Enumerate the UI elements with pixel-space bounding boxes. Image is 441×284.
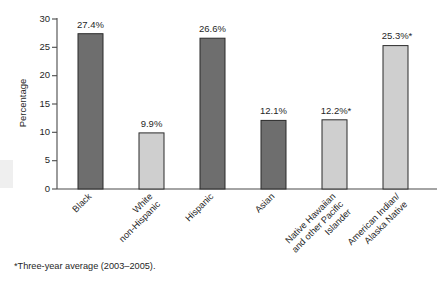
value-label-american-indian-alaska-native: 25.3%*: [382, 30, 413, 41]
bar-hispanic: [200, 38, 225, 189]
y-axis-ticks: 30 25 20 15 10 5 0: [39, 13, 57, 194]
bar-chart-figure: Percentage 30 25 20 15 10 5 0: [0, 0, 441, 284]
x-label-hispanic: Hispanic: [183, 191, 215, 223]
y-tick-label-30: 30: [39, 13, 50, 24]
y-tick-label-20: 20: [39, 69, 50, 80]
x-axis-category-labels: Black White non-Hispanic Hispanic Asian …: [70, 191, 409, 262]
x-label-american-indian-alaska-native: American Indian/ Alaska Native: [346, 191, 410, 255]
y-axis-title: Percentage: [17, 79, 28, 128]
x-label-black-line-0: Black: [70, 191, 93, 214]
value-label-hispanic: 26.6%: [199, 23, 226, 34]
bar-asian: [261, 120, 286, 189]
x-label-hispanic-line-0: Hispanic: [183, 191, 215, 223]
bars-group: [78, 34, 408, 189]
footnote-text: *Three-year average (2003–2005).: [14, 261, 155, 271]
bar-white-non-hispanic: [139, 133, 164, 189]
bar-black: [78, 34, 103, 189]
y-tick-label-0: 0: [45, 183, 50, 194]
y-tick-label-15: 15: [39, 98, 50, 109]
value-label-native-hawaiian-pacific-islander: 12.2%*: [321, 105, 352, 116]
bar-native-hawaiian-pacific-islander: [322, 120, 347, 189]
x-label-native-hawaiian-pacific-islander: Native Hawaiian and other Pacific Island…: [282, 191, 353, 262]
value-label-asian: 12.1%: [260, 105, 287, 116]
value-label-black: 27.4%: [77, 19, 104, 30]
chart-plot-area: Percentage 30 25 20 15 10 5 0: [0, 0, 441, 284]
y-tick-label-25: 25: [39, 41, 50, 52]
value-labels-group: 27.4% 9.9% 26.6% 12.1% 12.2%* 25.3%*: [77, 19, 413, 129]
y-tick-label-10: 10: [39, 126, 50, 137]
x-label-asian-line-0: Asian: [253, 191, 276, 214]
value-label-white-non-hispanic: 9.9%: [141, 118, 163, 129]
bar-american-indian-alaska-native: [383, 46, 408, 189]
y-tick-label-5: 5: [45, 154, 50, 165]
x-label-white-non-hispanic: White non-Hispanic: [109, 191, 162, 244]
x-label-black: Black: [70, 191, 93, 214]
x-label-asian: Asian: [253, 191, 276, 214]
